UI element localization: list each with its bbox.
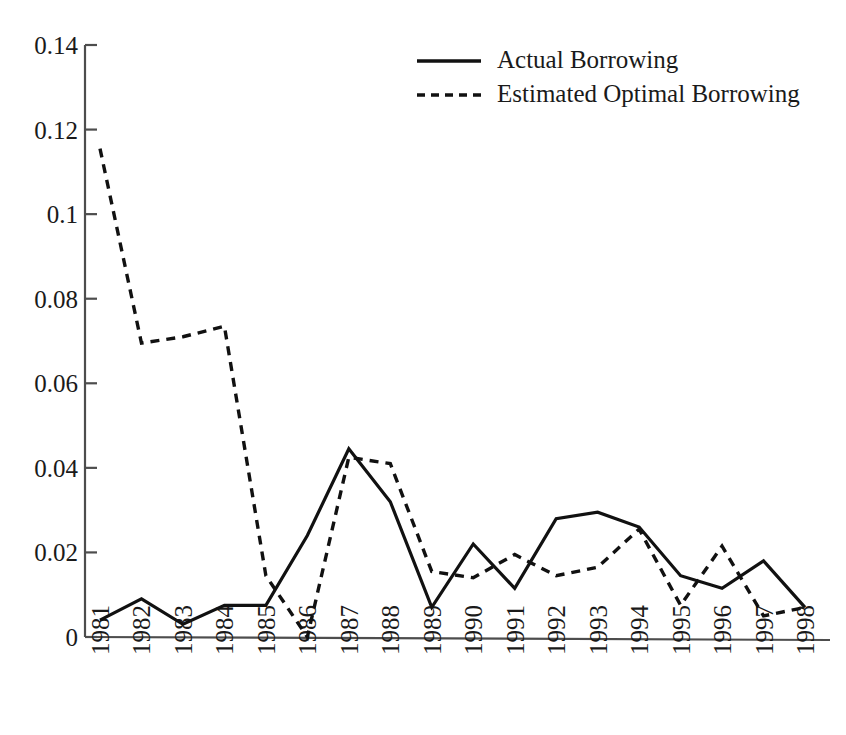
x-tick-label-1981: 1981	[87, 605, 114, 655]
x-tick-label-1989: 1989	[419, 605, 446, 655]
x-tick-label-1988: 1988	[377, 605, 404, 655]
x-tick-label-1982: 1982	[128, 605, 155, 655]
x-tick-label-1984: 1984	[211, 605, 238, 656]
x-tick-label-1983: 1983	[170, 605, 197, 655]
x-tick-label-1991: 1991	[502, 605, 529, 655]
x-tick-label-1992: 1992	[543, 605, 570, 655]
legend-label-estimated-optimal-borrowing: Estimated Optimal Borrowing	[497, 80, 800, 107]
x-tick-label-1987: 1987	[336, 605, 363, 655]
chart-figure: 00.020.040.060.080.10.120.14 19811982198…	[0, 0, 846, 735]
y-tick-label: 0.14	[34, 32, 78, 59]
y-tick-label: 0	[66, 624, 79, 651]
x-tick-label-1998: 1998	[792, 605, 819, 655]
y-tick-label: 0.12	[34, 117, 78, 144]
y-tick-label: 0.1	[47, 201, 78, 228]
y-tick-label: 0.06	[34, 370, 78, 397]
x-tick-label-1994: 1994	[626, 605, 653, 656]
legend-label-actual-borrowing: Actual Borrowing	[497, 46, 679, 73]
y-tick-label: 0.04	[34, 455, 78, 482]
x-tick-label-1997: 1997	[751, 605, 778, 655]
x-tick-label-1995: 1995	[668, 605, 695, 655]
x-tick-label-1993: 1993	[585, 605, 612, 655]
x-tick-label-1996: 1996	[709, 605, 736, 655]
y-tick-label: 0.02	[34, 539, 78, 566]
x-tick-label-1986: 1986	[294, 605, 321, 655]
y-tick-label: 0.08	[34, 286, 78, 313]
x-tick-label-1985: 1985	[253, 605, 280, 655]
x-tick-label-1990: 1990	[460, 605, 487, 655]
line-chart-canvas: 00.020.040.060.080.10.120.14 19811982198…	[0, 0, 846, 735]
